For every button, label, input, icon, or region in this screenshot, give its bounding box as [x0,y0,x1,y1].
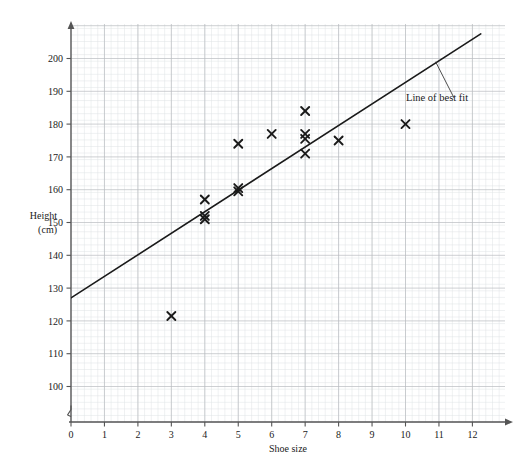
y-tick-label: 190 [48,86,63,97]
x-tick-label: 9 [370,429,375,440]
line-of-best-fit-label: Line of best fit [406,92,468,103]
y-tick-label: 140 [48,250,63,261]
y-tick-label: 120 [48,316,63,327]
chart-canvas: 100110120130140150160170180190200 012345… [0,0,517,465]
y-axis-title-line1: Height [30,210,57,221]
y-tick-label: 200 [48,53,63,64]
y-tick-label: 160 [48,184,63,195]
x-tick-label: 11 [434,429,444,440]
y-tick-label: 180 [48,119,63,130]
y-tick-label: 130 [48,283,63,294]
x-tick-label: 8 [336,429,341,440]
x-tick-label: 12 [467,429,477,440]
x-tick-label: 10 [401,429,411,440]
scatter-chart: Scatter diagram for all boys from strati… [0,0,517,465]
y-tick-label: 110 [48,348,63,359]
y-axis-title-line2: (cm) [38,224,57,236]
x-tick-label: 5 [236,429,241,440]
x-axis-title: Shoe size [269,443,308,454]
x-tick-label: 0 [69,429,74,440]
x-tick-label: 1 [102,429,107,440]
x-tick-label: 6 [269,429,274,440]
y-tick-label: 170 [48,152,63,163]
x-tick-label: 4 [202,429,207,440]
y-tick-label: 100 [48,381,63,392]
x-tick-label: 7 [303,429,308,440]
x-tick-label: 2 [135,429,140,440]
x-tick-label: 3 [169,429,174,440]
